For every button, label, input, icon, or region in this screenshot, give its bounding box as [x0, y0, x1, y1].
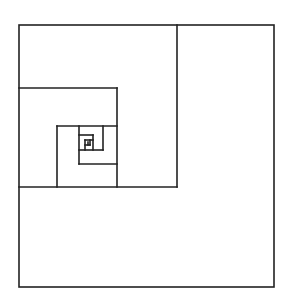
spiral-diagram — [0, 0, 288, 305]
spiral-segments — [19, 25, 177, 187]
